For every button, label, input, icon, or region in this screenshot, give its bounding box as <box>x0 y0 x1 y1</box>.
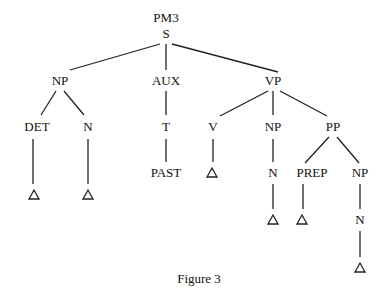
tree-edge <box>41 91 56 115</box>
tree-edge <box>280 91 327 116</box>
tree-node-n2: N <box>268 165 277 181</box>
tree-node-v: V <box>208 119 217 135</box>
tree-node-past: PAST <box>151 165 182 181</box>
tree-node-np1: NP <box>52 73 69 89</box>
empty-node-triangle-icon <box>268 215 278 224</box>
tree-node-vp: VP <box>265 73 282 89</box>
tree-node-aux: AUX <box>152 73 180 89</box>
tree-edge <box>70 44 160 70</box>
empty-node-triangle-icon <box>29 190 39 199</box>
tree-node-t: T <box>162 119 170 135</box>
tree-node-np3: NP <box>352 165 369 181</box>
tree-edge <box>337 137 359 163</box>
tree-edge <box>220 91 268 116</box>
tree-edge <box>172 44 278 72</box>
diagram-title: PM3 <box>153 10 178 26</box>
tree-edges <box>0 0 388 300</box>
tree-node-np2: NP <box>265 119 282 135</box>
tree-edge <box>305 137 329 163</box>
empty-node-triangle-icon <box>207 168 217 177</box>
tree-node-det: DET <box>24 119 49 135</box>
tree-node-n1: N <box>83 119 92 135</box>
empty-node-triangle-icon <box>355 263 365 272</box>
tree-node-n3: N <box>355 212 364 228</box>
figure-caption: Figure 3 <box>177 271 221 287</box>
tree-node-s: S <box>162 26 169 42</box>
empty-node-triangle-icon <box>297 215 307 224</box>
empty-node-triangle-icon <box>83 190 93 199</box>
tree-edge <box>64 91 84 115</box>
tree-node-pp: PP <box>326 119 340 135</box>
tree-node-prep: PREP <box>296 165 327 181</box>
